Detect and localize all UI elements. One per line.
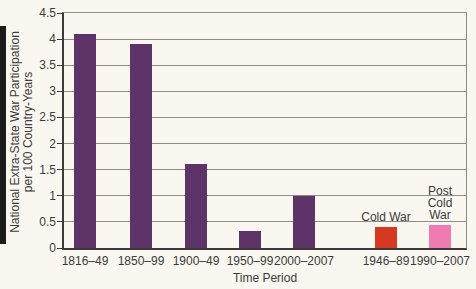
gridline-1 bbox=[64, 195, 466, 196]
y-tick-mark-3 bbox=[57, 91, 62, 92]
y-tick-mark-2 bbox=[57, 143, 62, 144]
x-tick-label-1900-49: 1900–49 bbox=[173, 254, 220, 268]
y-tick-mark-3-5 bbox=[57, 65, 62, 66]
bar-2000-2007 bbox=[293, 196, 315, 248]
annotation-post-cold-war: Post Cold War bbox=[427, 185, 453, 221]
left-margin-rule bbox=[0, 26, 6, 244]
gridline-3 bbox=[64, 91, 466, 92]
annotation-cold-war: Cold War bbox=[361, 211, 411, 223]
y-tick-mark-0-5 bbox=[57, 221, 62, 222]
bar-1816-49 bbox=[74, 34, 96, 248]
y-tick-label-3: 3 bbox=[18, 84, 56, 98]
y-tick-label-1: 1 bbox=[18, 189, 56, 203]
y-tick-label-4-5: 4.5 bbox=[18, 6, 56, 20]
y-tick-label-2-5: 2.5 bbox=[18, 110, 56, 124]
x-tick-label-2000-2007: 2000–2007 bbox=[274, 254, 334, 268]
y-tick-label-2: 2 bbox=[18, 137, 56, 151]
x-axis-title: Time Period bbox=[64, 271, 466, 285]
y-tick-label-4: 4 bbox=[18, 32, 56, 46]
y-tick-label-0-5: 0.5 bbox=[18, 215, 56, 229]
y-tick-mark-4-5 bbox=[57, 13, 62, 14]
x-tick-label-1950-99: 1950–99 bbox=[227, 254, 274, 268]
y-tick-label-0: 0 bbox=[18, 241, 56, 255]
gridline-2 bbox=[64, 143, 466, 144]
war-participation-bar-chart: National Extra-State War Participation p… bbox=[0, 0, 476, 289]
gridline-2-5 bbox=[64, 117, 466, 118]
bar-1850-99 bbox=[130, 44, 152, 248]
y-tick-mark-4 bbox=[57, 39, 62, 40]
chart-plot-area: Time Period 00.511.522.533.544.51816–491… bbox=[62, 12, 467, 250]
y-tick-mark-1 bbox=[57, 195, 62, 196]
x-tick-label-1990-2007: 1990–2007 bbox=[410, 254, 470, 268]
x-tick-label-1816-49: 1816–49 bbox=[62, 254, 109, 268]
bar-1990-2007 bbox=[429, 225, 451, 249]
y-tick-label-3-5: 3.5 bbox=[18, 58, 56, 72]
x-tick-label-1850-99: 1850–99 bbox=[118, 254, 165, 268]
bar-1950-99 bbox=[239, 231, 261, 248]
y-tick-mark-0 bbox=[57, 248, 62, 249]
y-tick-label-1-5: 1.5 bbox=[18, 163, 56, 177]
gridline-4 bbox=[64, 39, 466, 40]
gridline-1-5 bbox=[64, 169, 466, 170]
bar-1900-49 bbox=[185, 164, 207, 248]
gridline-3-5 bbox=[64, 65, 466, 66]
x-tick-label-1946-89: 1946–89 bbox=[363, 254, 410, 268]
bar-1946-89 bbox=[375, 227, 397, 248]
y-tick-mark-1-5 bbox=[57, 169, 62, 170]
y-tick-mark-2-5 bbox=[57, 117, 62, 118]
